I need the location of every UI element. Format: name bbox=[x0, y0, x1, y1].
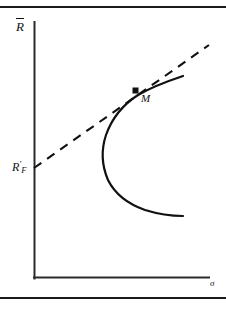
y-axis-label: R bbox=[16, 18, 24, 33]
figure-container: R R′F σ M bbox=[0, 0, 226, 309]
plot-area bbox=[0, 0, 226, 309]
caption-clipped bbox=[0, 301, 226, 309]
tangency-point-marker bbox=[133, 88, 139, 94]
risk-free-rate-label: R′F bbox=[12, 160, 27, 175]
capital-market-line bbox=[34, 45, 209, 168]
tangency-point-label: M bbox=[141, 92, 150, 104]
y-axis-label-text: R bbox=[16, 18, 24, 33]
bottom-rule bbox=[0, 297, 226, 299]
x-axis-label: σ bbox=[210, 279, 214, 288]
risk-free-rate-subscript: F bbox=[21, 165, 26, 175]
